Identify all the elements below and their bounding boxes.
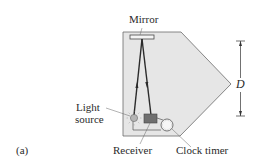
light-source-label-line1: Light bbox=[76, 102, 100, 113]
light-source-label-line2: source bbox=[75, 114, 104, 125]
receiver-label: Receiver bbox=[113, 145, 152, 156]
mirror-label: Mirror bbox=[129, 14, 158, 25]
distance-label: D bbox=[236, 79, 245, 90]
receiver bbox=[144, 114, 157, 123]
clock-timer-icon bbox=[161, 119, 173, 131]
clock-timer-label: Clock timer bbox=[176, 145, 228, 156]
arrow-down-icon bbox=[239, 111, 242, 116]
panel-label: (a) bbox=[16, 145, 28, 156]
device-body bbox=[123, 32, 231, 136]
arrow-up-icon bbox=[239, 41, 242, 46]
mirror bbox=[130, 35, 154, 39]
